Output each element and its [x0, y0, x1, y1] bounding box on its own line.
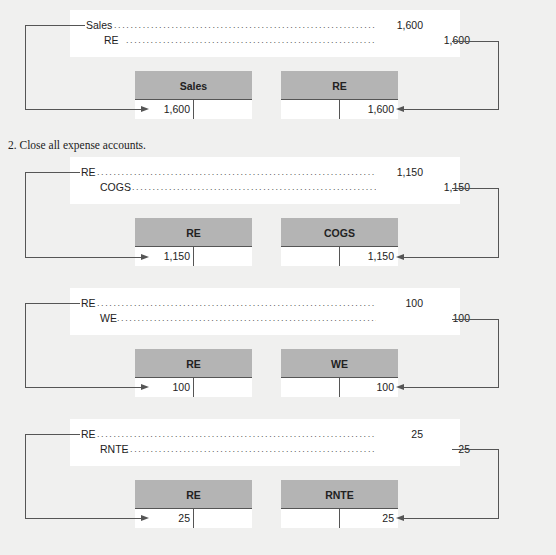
- connector-line-left: [25, 109, 145, 110]
- connector-line-right: [498, 41, 499, 110]
- t-account-right: COGS 1,150: [281, 218, 398, 266]
- arrow-left-icon: [396, 106, 404, 112]
- connector-line-left: [25, 25, 26, 109]
- connector-line-left: [25, 387, 145, 388]
- debit-value: 1,150: [164, 250, 190, 263]
- t-account-body: 1,150: [281, 247, 398, 266]
- connector-line-right: [452, 319, 499, 320]
- t-account-body: 100: [135, 378, 252, 397]
- connector-line-right: [452, 449, 499, 450]
- credit-line: RE .....................................…: [70, 34, 460, 47]
- leader-dots: ........................................…: [132, 181, 376, 194]
- credit-account: RNTE: [100, 443, 129, 456]
- leader-dots: ........................................…: [97, 297, 376, 310]
- connector-line-left: [25, 172, 26, 257]
- leader-dots: ........................................…: [117, 312, 376, 325]
- t-account-left: RE 25: [135, 480, 252, 528]
- t-account-right: RE 1,600: [281, 71, 398, 119]
- t-account-title: RE: [135, 218, 252, 247]
- leader-dots: ........................................…: [126, 443, 376, 456]
- credit-value: 25: [382, 512, 394, 525]
- leader-dots: ........................................…: [97, 428, 376, 441]
- debit-account: RE: [81, 297, 96, 310]
- connector-line-right: [498, 319, 499, 388]
- t-divider: [339, 509, 340, 528]
- arrow-left-icon: [396, 384, 404, 390]
- connector-line-right: [403, 387, 499, 388]
- journal-entry: Sales ..................................…: [70, 10, 460, 57]
- connector-line-left: [25, 434, 80, 435]
- credit-value: 100: [376, 381, 394, 394]
- debit-value: 1,600: [164, 103, 190, 116]
- t-account-left: RE 100: [135, 349, 252, 397]
- t-divider: [193, 247, 194, 266]
- closing-entry-rnte: RE .....................................…: [0, 408, 556, 533]
- t-account-title: Sales: [135, 71, 252, 100]
- t-account-body: 100: [281, 378, 398, 397]
- connector-line-left: [25, 25, 85, 26]
- t-account-body: 25: [281, 509, 398, 528]
- t-account-body: 1,600: [135, 100, 252, 119]
- credit-line: WE .....................................…: [70, 312, 460, 325]
- arrow-right-icon: [141, 384, 149, 390]
- t-account-body: 1,600: [281, 100, 398, 119]
- credit-account: RE: [104, 34, 119, 47]
- t-account-title: WE: [281, 349, 398, 378]
- connector-line-left: [25, 303, 26, 387]
- connector-line-right: [498, 449, 499, 519]
- t-divider: [339, 100, 340, 119]
- credit-line: COGS ...................................…: [70, 181, 460, 194]
- connector-line-left: [25, 257, 145, 258]
- connector-line-right: [498, 188, 499, 258]
- debit-value: 25: [178, 512, 190, 525]
- debit-line: RE .....................................…: [70, 297, 460, 310]
- credit-account: COGS: [100, 181, 131, 194]
- debit-amount: 100: [363, 297, 423, 310]
- closing-entry-we: RE .....................................…: [0, 278, 556, 403]
- connector-line-right: [452, 41, 499, 42]
- arrow-left-icon: [396, 254, 404, 260]
- connector-line-right: [403, 109, 499, 110]
- t-account-title: RE: [135, 349, 252, 378]
- t-divider: [193, 378, 194, 397]
- t-account-right: WE 100: [281, 349, 398, 397]
- journal-entry: RE .....................................…: [70, 288, 460, 335]
- debit-account: Sales: [86, 19, 112, 32]
- t-divider: [339, 247, 340, 266]
- t-divider: [193, 100, 194, 119]
- arrow-right-icon: [141, 106, 149, 112]
- debit-value: 100: [172, 381, 190, 394]
- credit-value: 1,150: [368, 250, 394, 263]
- t-account-left: Sales 1,600: [135, 71, 252, 119]
- connector-line-right: [452, 188, 499, 189]
- debit-line: RE .....................................…: [70, 166, 460, 179]
- connector-line-left: [25, 172, 80, 173]
- t-account-right: RNTE 25: [281, 480, 398, 528]
- arrow-right-icon: [141, 515, 149, 521]
- leader-dots: ........................................…: [114, 19, 376, 32]
- t-divider: [339, 378, 340, 397]
- debit-amount: 25: [363, 428, 423, 441]
- connector-line-right: [403, 257, 499, 258]
- t-account-left: RE 1,150: [135, 218, 252, 266]
- connector-line-left: [25, 518, 145, 519]
- leader-dots: ........................................…: [97, 166, 376, 179]
- t-account-title: RE: [281, 71, 398, 100]
- leader-dots: ........................................…: [126, 34, 376, 47]
- connector-line-left: [25, 434, 26, 518]
- arrow-left-icon: [396, 515, 404, 521]
- credit-line: RNTE ...................................…: [70, 443, 460, 456]
- debit-amount: 1,150: [363, 166, 423, 179]
- debit-account: RE: [81, 428, 96, 441]
- journal-entry: RE .....................................…: [70, 419, 460, 466]
- t-account-title: RNTE: [281, 480, 398, 509]
- t-account-body: 25: [135, 509, 252, 528]
- t-divider: [193, 509, 194, 528]
- arrow-right-icon: [141, 254, 149, 260]
- journal-entry: RE .....................................…: [70, 157, 460, 204]
- connector-line-right: [403, 518, 499, 519]
- t-account-title: COGS: [281, 218, 398, 247]
- debit-line: Sales ..................................…: [70, 19, 460, 32]
- closing-entry-cogs: RE .....................................…: [0, 147, 556, 272]
- t-account-body: 1,150: [135, 247, 252, 266]
